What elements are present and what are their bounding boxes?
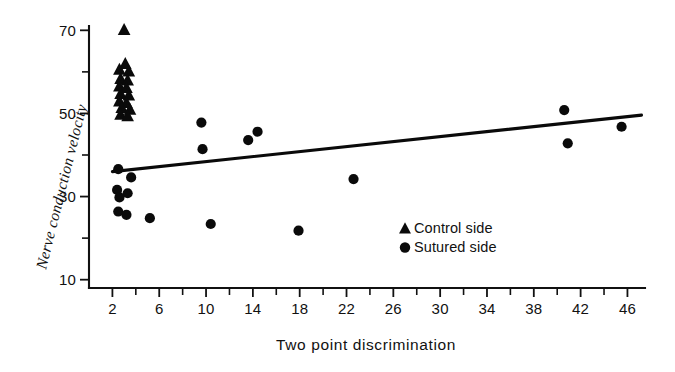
y-axis-title-text: Nerve conduction velocity bbox=[32, 102, 90, 271]
legend: Control side Sutured side bbox=[399, 220, 497, 255]
x-tick-label: 34 bbox=[478, 300, 495, 317]
data-point-circle bbox=[616, 122, 626, 132]
data-point-circle bbox=[126, 172, 136, 182]
data-point-circle bbox=[113, 164, 123, 174]
data-point-circle bbox=[293, 226, 303, 236]
regression-line bbox=[112, 115, 641, 172]
data-point-circle bbox=[197, 144, 207, 154]
legend-triangle-icon bbox=[399, 222, 411, 233]
y-axis-title: Nerve conduction velocity bbox=[32, 102, 90, 271]
x-tick-label: 6 bbox=[155, 300, 164, 317]
x-axis-title-text: Two point discrimination bbox=[276, 336, 456, 353]
y-axis-ticks bbox=[80, 30, 89, 279]
x-tick-label: 2 bbox=[108, 300, 117, 317]
data-point-triangle bbox=[118, 23, 131, 35]
x-tick-label: 42 bbox=[572, 300, 589, 317]
x-axis-ticks bbox=[112, 288, 627, 297]
x-axis-group: 2610141822263034384246 bbox=[89, 288, 645, 317]
legend-circle-icon bbox=[400, 242, 410, 252]
scatter-plot: 10305070 2610141822263034384246 Nerve co… bbox=[0, 0, 675, 372]
data-point-circle bbox=[563, 138, 573, 148]
series-control-side bbox=[113, 23, 136, 121]
x-tick-label: 30 bbox=[432, 300, 449, 317]
figure-container: 10305070 2610141822263034384246 Nerve co… bbox=[0, 0, 675, 372]
y-tick-label: 10 bbox=[59, 271, 76, 288]
data-point-circle bbox=[243, 135, 253, 145]
x-tick-label: 10 bbox=[198, 300, 215, 317]
data-point-circle bbox=[121, 210, 131, 220]
data-point-circle bbox=[206, 219, 216, 229]
legend-label-control: Control side bbox=[414, 220, 493, 236]
data-point-circle bbox=[252, 127, 262, 137]
data-point-circle bbox=[196, 117, 206, 127]
x-tick-label: 18 bbox=[291, 300, 308, 317]
x-tick-label: 26 bbox=[385, 300, 402, 317]
data-point-circle bbox=[145, 213, 155, 223]
x-axis-tick-labels: 2610141822263034384246 bbox=[108, 300, 636, 317]
y-tick-label: 70 bbox=[59, 22, 76, 39]
legend-label-sutured: Sutured side bbox=[414, 239, 497, 255]
data-point-circle bbox=[114, 192, 124, 202]
x-tick-label: 14 bbox=[244, 300, 261, 317]
data-point-circle bbox=[348, 174, 358, 184]
x-tick-label: 46 bbox=[619, 300, 636, 317]
x-tick-label: 38 bbox=[525, 300, 542, 317]
x-tick-label: 22 bbox=[338, 300, 355, 317]
data-point-circle bbox=[559, 105, 569, 115]
